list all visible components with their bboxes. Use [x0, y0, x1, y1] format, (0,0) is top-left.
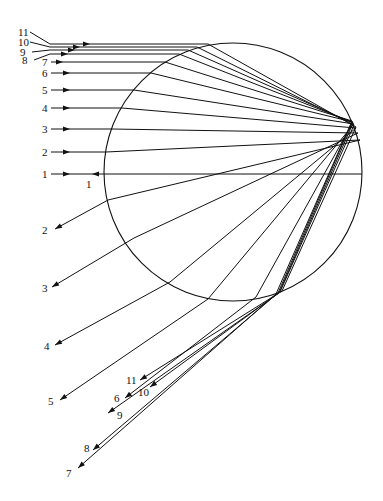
outgoing-ray-label: 8: [84, 442, 90, 454]
outgoing-ray-label: 10: [138, 386, 150, 398]
outgoing-ray-label: 2: [42, 224, 48, 236]
refracted-ray-line: [112, 129, 358, 133]
incoming-arrow-icon: [63, 71, 70, 76]
outgoing-ray-label: 6: [114, 392, 120, 404]
internal-reflected-ray-line: [278, 122, 352, 293]
incoming-arrow-icon: [83, 42, 90, 47]
outgoing-ray-label: 4: [44, 340, 50, 352]
incoming-ray-label: 5: [42, 84, 48, 96]
outgoing-ray-label: 9: [117, 409, 123, 421]
incoming-arrow-icon: [63, 106, 70, 111]
outgoing-ray-line: [52, 238, 134, 287]
incoming-ray-label: 2: [42, 146, 48, 158]
refracted-ray-line: [197, 47, 354, 125]
incoming-ray-label: 3: [42, 123, 48, 135]
incoming-arrow-icon: [73, 45, 80, 50]
refracted-ray-line: [179, 54, 352, 122]
rainbow-ray-diagram: 12345678910111234567891011: [0, 0, 383, 501]
incoming-arrow-icon: [63, 127, 70, 132]
outgoing-ray-line: [150, 292, 280, 387]
outgoing-arrow-icon: [60, 394, 67, 400]
incoming-arrow-icon: [61, 52, 68, 57]
outgoing-rays: [52, 121, 360, 468]
incoming-arrow-icon: [63, 88, 70, 93]
outgoing-ray-label: 3: [42, 282, 48, 294]
incoming-arrow-icon: [56, 60, 63, 65]
outgoing-arrow-icon: [150, 381, 157, 387]
refracted-ray-line: [208, 44, 356, 127]
incoming-ray-label: 6: [42, 67, 48, 79]
incoming-ray-label: 4: [42, 102, 48, 114]
outgoing-ray-line: [140, 291, 282, 380]
internal-reflected-ray-line: [208, 124, 354, 299]
outgoing-arrow-icon: [55, 339, 62, 345]
incoming-ray-label: 1: [42, 168, 48, 180]
outgoing-arrow-icon: [52, 281, 59, 287]
outgoing-ray-line: [55, 282, 170, 345]
label-leader-line: [30, 32, 50, 44]
outgoing-ray-label: 7: [66, 467, 72, 479]
outgoing-ray-line: [125, 297, 256, 398]
outgoing-arrow-icon: [92, 172, 99, 177]
incoming-arrow-icon: [63, 172, 70, 177]
outgoing-arrow-icon: [108, 407, 115, 413]
incoming-ray-label: 11: [18, 26, 29, 38]
outgoing-ray-label: 1: [86, 178, 92, 190]
outgoing-ray-label: 11: [126, 374, 137, 386]
incoming-ray-label: 7: [42, 56, 48, 68]
outgoing-ray-label: 5: [48, 395, 54, 407]
outgoing-ray-line: [93, 293, 278, 450]
outgoing-arrow-icon: [55, 223, 62, 229]
water-drop-circle: [104, 43, 362, 301]
label-leader-line: [32, 50, 50, 52]
internal-reflected-ray-line: [279, 123, 353, 293]
outgoing-ray-line: [55, 200, 108, 229]
incoming-arrow-icon: [63, 150, 70, 155]
internal-reflected-ray-line: [256, 122, 353, 297]
outgoing-arrow-icon: [140, 374, 147, 380]
refracted-ray-line: [165, 62, 352, 121]
internal-reflected-ray-line: [276, 121, 352, 294]
